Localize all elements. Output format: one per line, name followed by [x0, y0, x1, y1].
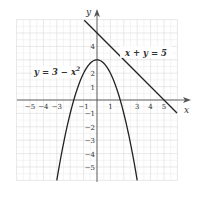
x-tick-label: −3	[52, 103, 62, 111]
y-axis-label: y	[85, 7, 92, 17]
graph: x y −5−4−3−11345 421−1−2−3−4−5 x + y = 5…	[0, 0, 206, 198]
x-tick-label: 5	[162, 103, 166, 111]
y-tick-label: −2	[85, 124, 95, 132]
x-tick-label: 4	[148, 103, 153, 111]
y-tick-label: −4	[85, 151, 96, 159]
x-tick-label: −4	[38, 103, 49, 111]
line-equation-label: x + y = 5	[124, 48, 167, 58]
x-tick-label: 3	[135, 103, 139, 111]
x-tick-label: −5	[25, 103, 35, 111]
y-tick-label: −5	[85, 164, 95, 172]
x-tick-labels: −5−4−3−11345	[25, 103, 166, 111]
y-tick-label: −1	[85, 110, 95, 118]
y-tick-label: 1	[91, 84, 95, 92]
y-tick-label: 2	[91, 70, 95, 78]
x-axis-label: x	[184, 105, 189, 115]
y-tick-label: 4	[91, 43, 96, 51]
y-tick-label: −3	[85, 137, 95, 145]
parabola-equation-label: y = 3 − x2	[33, 65, 80, 77]
x-tick-label: 1	[108, 103, 112, 111]
